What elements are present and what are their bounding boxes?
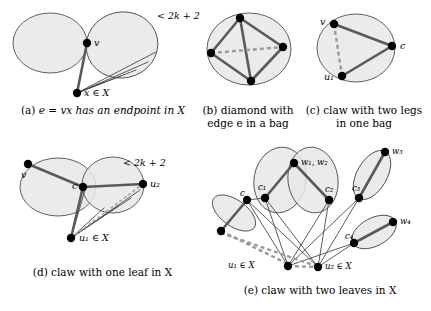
panel-b-caption-line1: (b) diamond with: [200, 104, 296, 117]
panel-d-vertex-label-u1: u₁ ∈ X: [79, 232, 109, 243]
panel-e-vertex-label-c3: c₃: [352, 183, 360, 193]
panel-e-node-w12: [290, 159, 298, 167]
panel-a-graphics: [13, 5, 164, 97]
panel-a-caption-body: e = vx has an endpoint in X: [39, 104, 185, 116]
panel-d-caption: (d) claw with one leaf in X: [10, 266, 195, 279]
panel-d-node-u1: [67, 234, 75, 242]
panel-b-node-top: [236, 14, 244, 22]
panel-e-vertex-label-u1: u₁ ∈ X: [228, 260, 255, 270]
panel-b-node-right: [279, 43, 287, 51]
figure-graphics: [0, 0, 431, 311]
panel-b-node-left: [207, 49, 215, 57]
panel-e-vertex-label-c1: c₁: [258, 182, 266, 192]
panel-a-caption-tag: (a): [21, 104, 35, 116]
panel-c-node-v: [330, 20, 338, 28]
panel-c-vertex-label-c: c: [400, 40, 405, 51]
panel-c-caption-line1: (c) claw with two legs: [300, 104, 428, 117]
panel-e-caption: (e) claw with two leaves in X: [225, 284, 415, 297]
panel-b-caption-line2: edge e in a bag: [200, 117, 296, 130]
figure-root: < 2k + 2 v x ∈ X (a) e = vx has an endpo…: [0, 0, 431, 311]
panel-d-vertex-label-u2: u₂: [150, 178, 160, 189]
panel-a-vertex-label-v: v: [94, 37, 99, 48]
panel-d-vertex-label-v: v: [21, 169, 26, 180]
panel-e-bag-c: [206, 188, 262, 238]
panel-e-vertex-label-c2: c₂: [325, 184, 333, 194]
panel-d-graphics: [20, 157, 147, 242]
panel-e-vertex-label-u2: u₂ ∈ X: [325, 261, 352, 271]
panel-e-node-c1: [261, 194, 269, 202]
panel-a-left-bag: [13, 13, 87, 73]
panel-a-node-x: [73, 89, 81, 97]
panel-e-node-u1: [284, 262, 292, 270]
panel-d-node-u2: [139, 180, 147, 188]
panel-c-node-u1: [338, 72, 346, 80]
panel-c-caption-line2: in one bag: [300, 117, 428, 130]
panel-a-node-v: [83, 39, 91, 47]
panel-a-bag-size-annotation: < 2k + 2: [157, 10, 200, 21]
panel-d-node-c: [79, 183, 87, 191]
panel-e-vertex-label-c: c: [240, 188, 245, 198]
panel-a-caption: (a) e = vx has an endpoint in X: [8, 104, 198, 117]
panel-a-vertex-label-x: x ∈ X: [84, 87, 109, 98]
panel-b-graphics: [207, 13, 291, 85]
panel-b-caption: (b) diamond with edge e in a bag: [200, 104, 296, 130]
panel-e-node-c2: [325, 196, 333, 204]
panel-e-vertex-label-w3: w₃: [392, 146, 403, 156]
panel-e-node-c3: [355, 194, 363, 202]
panel-e-vertex-label-c4: c₄: [345, 231, 353, 241]
panel-e-node-w4: [389, 218, 397, 226]
panel-e-vertex-label-w4: w₄: [400, 216, 411, 226]
panel-a-right-bag: [80, 5, 164, 85]
panel-d-vertex-label-c: c: [72, 180, 77, 191]
panel-b-node-bottom: [247, 77, 255, 85]
panel-c-vertex-label-v: v: [320, 16, 325, 27]
panel-e-node-v: [217, 227, 225, 235]
panel-e-node-w3: [381, 148, 389, 156]
panel-e-vertex-label-w1w2: w₁, w₂: [301, 157, 328, 167]
panel-c-caption: (c) claw with two legs in one bag: [300, 104, 428, 130]
panel-c-vertex-label-u1: u₁: [324, 71, 334, 82]
panel-c-node-c: [388, 42, 396, 50]
panel-e-node-u2: [314, 263, 322, 271]
panel-d-node-v: [24, 160, 32, 168]
panel-d-bag-size-annotation: < 2k + 2: [123, 157, 166, 168]
